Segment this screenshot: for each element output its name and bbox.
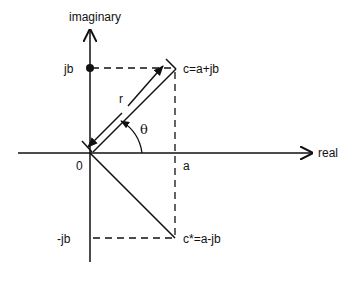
- r-arrow-down: [88, 113, 122, 147]
- jb-point: [86, 64, 94, 72]
- real-axis-label: real: [318, 146, 338, 160]
- r-label: r: [119, 92, 123, 106]
- c-label: c=a+jb: [183, 62, 219, 76]
- vector-c-conj: [90, 153, 175, 238]
- a-label: a: [183, 159, 190, 173]
- complex-plane-diagram: imaginary real 0 a jb -jb c=a+jb c*=a-jb…: [0, 0, 358, 284]
- imaginary-axis-label: imaginary: [69, 10, 121, 24]
- c-conj-label: c*=a-jb: [183, 232, 221, 246]
- theta-arc: [121, 121, 142, 153]
- jb-label: jb: [63, 62, 74, 76]
- neg-jb-label: -jb: [57, 232, 71, 246]
- theta-label: θ: [140, 122, 148, 137]
- vector-c-outer: [93, 69, 176, 152]
- origin-label: 0: [76, 159, 83, 173]
